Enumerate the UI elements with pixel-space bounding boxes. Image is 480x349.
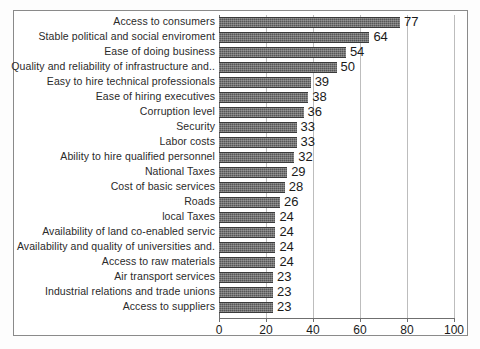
- category-label: Ease of hiring executives: [96, 91, 215, 102]
- tick-label: 20: [259, 323, 272, 337]
- bar[interactable]: [219, 107, 304, 118]
- bar-chart: Access to consumersStable political and …: [0, 0, 480, 349]
- bar-value-label: 77: [404, 14, 418, 29]
- bar-value-label: 23: [277, 299, 291, 314]
- bar[interactable]: [219, 257, 275, 268]
- bar-value-label: 36: [308, 104, 322, 119]
- bar-value-label: 26: [284, 194, 298, 209]
- tick-mark: [313, 318, 314, 322]
- tick-label: 100: [444, 323, 464, 337]
- bar-value-label: 32: [298, 149, 312, 164]
- bar[interactable]: [219, 92, 308, 103]
- bar-row[interactable]: 32: [219, 150, 454, 165]
- category-label: local Taxes: [162, 211, 215, 222]
- bar[interactable]: [219, 77, 311, 88]
- bar-value-label: 23: [277, 284, 291, 299]
- bar-value-label: 50: [341, 59, 355, 74]
- category-label: Labor costs: [160, 136, 215, 147]
- bar[interactable]: [219, 197, 280, 208]
- category-label: Ability to hire qualified personnel: [60, 151, 215, 162]
- category-label: Availability and quality of universities…: [17, 241, 215, 252]
- bar[interactable]: [219, 272, 273, 283]
- bar-value-label: 24: [279, 239, 293, 254]
- bar-row[interactable]: 36: [219, 105, 454, 120]
- bar-row[interactable]: 23: [219, 285, 454, 300]
- bar-row[interactable]: 77: [219, 15, 454, 30]
- tick-mark: [266, 318, 267, 322]
- bar[interactable]: [219, 227, 275, 238]
- bar-value-label: 33: [301, 134, 315, 149]
- gridline: [454, 15, 455, 318]
- category-axis-labels: Access to consumersStable political and …: [14, 11, 219, 311]
- tick-label: 60: [353, 323, 366, 337]
- category-label: Access to raw materials: [102, 256, 215, 267]
- bar-value-label: 28: [289, 179, 303, 194]
- category-label: Ease of doing business: [104, 46, 215, 57]
- bar-row[interactable]: 26: [219, 195, 454, 210]
- category-label: Security: [176, 121, 215, 132]
- bar-row[interactable]: 28: [219, 180, 454, 195]
- bar[interactable]: [219, 62, 337, 73]
- bar-row[interactable]: 33: [219, 120, 454, 135]
- tick-label: 0: [216, 323, 223, 337]
- bar-value-label: 29: [291, 164, 305, 179]
- bar-row[interactable]: 24: [219, 255, 454, 270]
- bar-row[interactable]: 54: [219, 45, 454, 60]
- bar[interactable]: [219, 212, 275, 223]
- tick-mark: [219, 318, 220, 322]
- bar[interactable]: [219, 242, 275, 253]
- category-label: Access to suppliers: [123, 301, 215, 312]
- bar-row[interactable]: 23: [219, 270, 454, 285]
- bar[interactable]: [219, 17, 400, 28]
- bar[interactable]: [219, 32, 369, 43]
- bar-row[interactable]: 24: [219, 210, 454, 225]
- bar-value-label: 24: [279, 224, 293, 239]
- bar-value-label: 54: [350, 44, 364, 59]
- category-label: National Taxes: [145, 166, 215, 177]
- tick-mark: [454, 318, 455, 322]
- bar[interactable]: [219, 122, 297, 133]
- category-label: Availability of land co-enabled servic: [42, 226, 215, 237]
- bar-value-label: 33: [301, 119, 315, 134]
- bar-value-label: 24: [279, 209, 293, 224]
- bar-value-label: 64: [373, 29, 387, 44]
- bar-row[interactable]: 33: [219, 135, 454, 150]
- bar[interactable]: [219, 47, 346, 58]
- bar-row[interactable]: 24: [219, 225, 454, 240]
- bar[interactable]: [219, 137, 297, 148]
- bar-row[interactable]: 23: [219, 300, 454, 315]
- category-label: Cost of basic services: [111, 181, 215, 192]
- category-label: Roads: [184, 196, 215, 207]
- category-label: Corruption level: [140, 106, 215, 117]
- bar-row[interactable]: 24: [219, 240, 454, 255]
- bar-value-label: 23: [277, 269, 291, 284]
- bar-row[interactable]: 50: [219, 60, 454, 75]
- category-label: Easy to hire technical professionals: [47, 76, 215, 87]
- bar-row[interactable]: 64: [219, 30, 454, 45]
- category-label: Industrial relations and trade unions: [45, 286, 215, 297]
- category-label: Quality and reliability of infrastructur…: [11, 61, 215, 72]
- value-axis-baseline: [219, 318, 455, 319]
- tick-mark: [407, 318, 408, 322]
- category-label: Air transport services: [114, 271, 215, 282]
- bar-row[interactable]: 29: [219, 165, 454, 180]
- bar[interactable]: [219, 182, 285, 193]
- bar-value-label: 38: [312, 89, 326, 104]
- bar[interactable]: [219, 167, 287, 178]
- plot-area: 7764545039383633333229282624242424232323…: [219, 15, 454, 318]
- bar[interactable]: [219, 152, 294, 163]
- category-label: Stable political and social enviroment: [38, 31, 215, 42]
- bar-row[interactable]: 38: [219, 90, 454, 105]
- category-label: Access to consumers: [113, 16, 215, 27]
- bar-value-label: 24: [279, 254, 293, 269]
- bar-row[interactable]: 39: [219, 75, 454, 90]
- bar[interactable]: [219, 287, 273, 298]
- bar-value-label: 39: [315, 74, 329, 89]
- tick-label: 40: [306, 323, 319, 337]
- chart-frame: Access to consumersStable political and …: [13, 10, 468, 336]
- bar[interactable]: [219, 302, 273, 313]
- tick-label: 80: [400, 323, 413, 337]
- tick-mark: [360, 318, 361, 322]
